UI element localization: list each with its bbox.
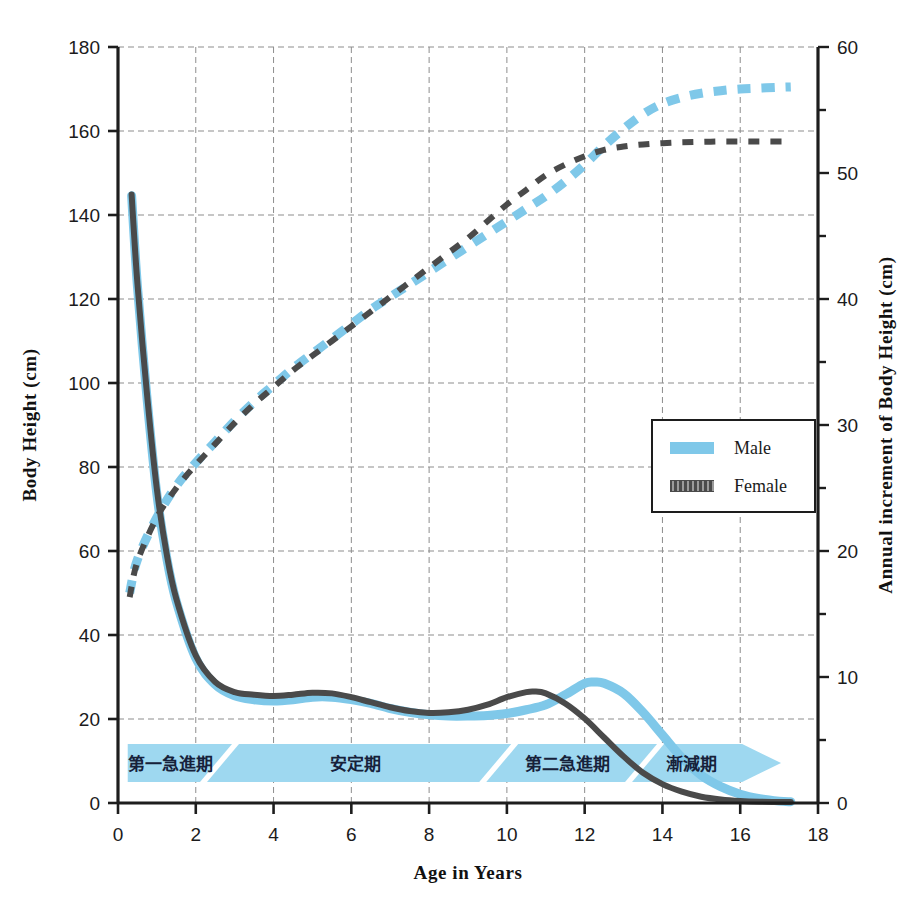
y-tick-label-right: 10	[837, 667, 858, 688]
legend-label: Female	[734, 476, 787, 496]
y-tick-label-right: 30	[837, 415, 858, 436]
y-tick-label-left: 140	[68, 205, 100, 226]
y-tick-label-left: 100	[68, 373, 100, 394]
growth-chart-figure: 0204060801001201401601800102030405060024…	[0, 0, 922, 905]
x-tick-label: 8	[424, 824, 435, 845]
x-tick-label: 10	[496, 824, 517, 845]
y-tick-label-right: 50	[837, 163, 858, 184]
y-tick-label-right: 40	[837, 289, 858, 310]
y-tick-label-left: 80	[79, 457, 100, 478]
legend[interactable]: MaleFemale	[652, 420, 815, 512]
y-axis-title-right: Annual increment of Body Height (cm)	[875, 256, 897, 593]
x-tick-label: 4	[268, 824, 279, 845]
phase-label: 漸減期	[666, 754, 717, 774]
chart-canvas: 0204060801001201401601800102030405060024…	[0, 0, 922, 905]
phase-label: 第一急進期	[128, 754, 213, 774]
legend-swatch-male	[670, 442, 714, 454]
x-axis-title: Age in Years	[414, 862, 523, 883]
y-tick-label-left: 60	[79, 541, 100, 562]
y-tick-label-right: 20	[837, 541, 858, 562]
y-tick-label-left: 20	[79, 709, 100, 730]
y-tick-label-left: 0	[89, 793, 100, 814]
legend-swatch-female	[670, 480, 714, 492]
y-tick-label-left: 40	[79, 625, 100, 646]
y-axis-title-left: Body Height (cm)	[19, 348, 41, 501]
x-tick-label: 16	[730, 824, 751, 845]
y-tick-label-right: 0	[837, 793, 848, 814]
x-tick-label: 14	[652, 824, 674, 845]
y-tick-label-left: 160	[68, 121, 100, 142]
x-tick-label: 0	[113, 824, 124, 845]
phase-label: 安定期	[330, 754, 381, 774]
x-tick-label: 2	[190, 824, 201, 845]
x-tick-label: 12	[574, 824, 595, 845]
y-tick-label-left: 120	[68, 289, 100, 310]
x-tick-label: 6	[346, 824, 357, 845]
legend-label: Male	[734, 438, 771, 458]
legend-box[interactable]	[652, 420, 815, 512]
phase-label: 第二急進期	[525, 754, 610, 774]
y-tick-label-right: 60	[837, 37, 858, 58]
x-tick-label: 18	[807, 824, 828, 845]
y-tick-label-left: 180	[68, 37, 100, 58]
